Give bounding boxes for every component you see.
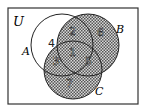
region-1-label: 1 — [69, 46, 76, 59]
set-b-label: B — [115, 23, 124, 36]
region-2-label: 2 — [69, 25, 76, 38]
universe-label: U — [13, 14, 25, 29]
venn-diagram: U A B C 4 2 1 3 5 6 7 — [0, 0, 146, 111]
region-7-label: 7 — [66, 77, 73, 90]
set-c-label: C — [95, 85, 104, 98]
region-6-label: 6 — [97, 26, 104, 39]
region-4-label: 4 — [48, 37, 55, 50]
set-a-label: A — [21, 45, 30, 58]
region-3-label: 3 — [53, 55, 60, 68]
region-5-label: 5 — [85, 55, 92, 68]
